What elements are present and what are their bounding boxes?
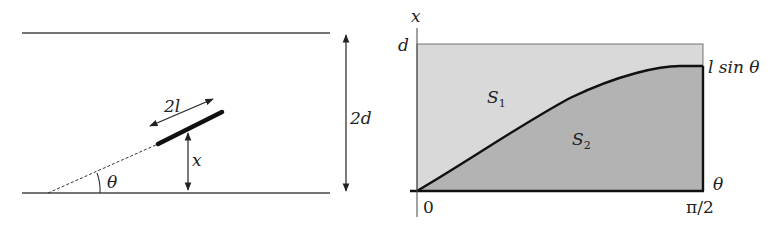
- extension-dashed-line: [48, 144, 158, 193]
- x-axis-label: θ: [713, 174, 723, 194]
- angle-label: θ: [107, 172, 117, 192]
- needle-length-label: 2l: [163, 96, 180, 116]
- y-top-label: d: [398, 35, 409, 55]
- buffon-needle-figure: 2d 2l x θ x d l sin θ θ 0 π/2 S1 S2: [0, 0, 780, 235]
- gap-label: 2d: [349, 108, 372, 128]
- left-diagram: 2d 2l x θ: [22, 33, 372, 193]
- y-axis-label: x: [411, 6, 421, 26]
- height-label: x: [192, 150, 202, 170]
- curve-label: l sin θ: [708, 57, 760, 77]
- needle: [158, 112, 222, 144]
- angle-arc: [97, 173, 100, 193]
- x-end-label: π/2: [686, 197, 714, 217]
- x-start-label: 0: [423, 197, 434, 217]
- right-diagram: x d l sin θ θ 0 π/2 S1 S2: [398, 6, 760, 217]
